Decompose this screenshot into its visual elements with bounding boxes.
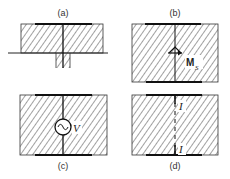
panel-c: V (c) [20, 95, 107, 171]
crystal-slab-a [21, 24, 103, 53]
panel-d: I I (d) [132, 95, 218, 171]
panel-a: (a) [8, 8, 108, 68]
panel-a-label: (a) [58, 8, 69, 18]
ac-source-icon [55, 119, 71, 135]
panel-b-label: (b) [170, 8, 181, 18]
magnetization-symbol: M [186, 57, 194, 68]
panel-c-label: (c) [58, 161, 69, 171]
magnetization-subscript: S [195, 64, 199, 72]
figure-canvas: (a) (b) M S V ( [0, 0, 230, 179]
panel-b: (b) M S [132, 8, 218, 82]
panel-d-label: (d) [170, 161, 181, 171]
